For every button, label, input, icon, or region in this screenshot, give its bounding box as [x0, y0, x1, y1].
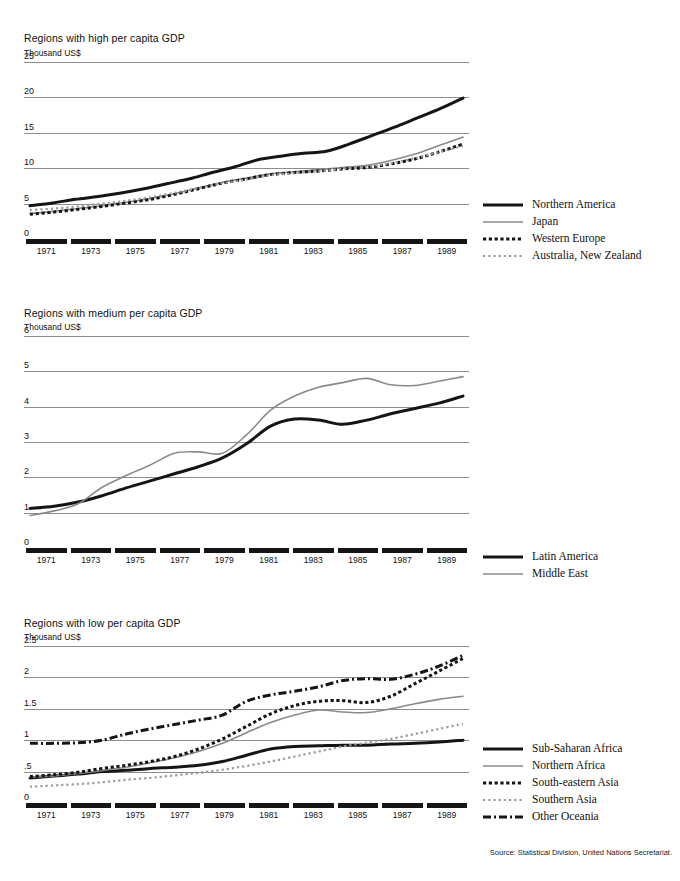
legend-swatch-icon: [483, 760, 523, 772]
x-axis-tick-label: 1975: [113, 555, 158, 565]
x-axis-tick-label: 1987: [380, 246, 425, 256]
legend-label: Southern Asia: [532, 794, 597, 806]
x-axis-tick-label: 1987: [380, 810, 425, 820]
x-axis-tick-label: 1979: [202, 555, 247, 565]
y-axis-tick-label: 6: [24, 325, 29, 335]
series-line: [30, 98, 463, 206]
legend-swatch-icon: [483, 777, 523, 789]
panel-unit-medium: Thousand US$: [24, 322, 81, 332]
x-axis-segment: [71, 239, 112, 244]
legend-swatch-icon: [483, 199, 523, 211]
x-axis-segment: [71, 548, 112, 553]
x-axis-segment: [26, 548, 67, 553]
panel-title-low: Regions with low per capita GDP: [24, 617, 181, 629]
x-axis-segment: [204, 803, 245, 808]
x-axis-segment: [249, 239, 290, 244]
legend-item[interactable]: Middle East: [483, 565, 598, 582]
chart-plot-low: 0.511.522.519711973197519771979198119831…: [24, 646, 469, 821]
legend-swatch-icon: [483, 551, 523, 563]
legend-label: Western Europe: [532, 233, 605, 245]
x-axis-tick-label: 1971: [24, 810, 69, 820]
y-axis-tick-label: 25: [24, 51, 34, 61]
legend-swatch-icon: [483, 233, 523, 245]
x-axis-tick-label: 1987: [380, 555, 425, 565]
x-axis-segment: [427, 239, 468, 244]
legend-swatch-icon: [483, 216, 523, 228]
series-line: [30, 740, 463, 778]
x-axis-tick-label: 1975: [113, 246, 158, 256]
x-axis-tick-label: 1971: [24, 246, 69, 256]
legend-item[interactable]: Northern America: [483, 196, 642, 213]
legend-swatch-icon: [483, 568, 523, 580]
x-axis-tick-label: 1981: [247, 810, 292, 820]
series-line: [30, 377, 463, 516]
x-axis-segment: [160, 803, 201, 808]
panel-title-high: Regions with high per capita GDP: [24, 32, 185, 44]
legend-item[interactable]: South-eastern Asia: [483, 774, 622, 791]
x-axis-segment: [160, 239, 201, 244]
legend-item[interactable]: Other Oceania: [483, 808, 622, 825]
x-axis-tick-label: 1971: [24, 555, 69, 565]
x-axis-tick-label: 1979: [202, 246, 247, 256]
x-axis-segment: [382, 239, 423, 244]
series-layer: [24, 336, 469, 548]
legend-label: Sub-Saharan Africa: [532, 743, 622, 755]
x-axis-tick-label: 1981: [247, 555, 292, 565]
x-axis-segment: [338, 548, 379, 553]
x-axis-segment: [427, 803, 468, 808]
x-axis-segment: [160, 548, 201, 553]
x-axis-segment: [427, 548, 468, 553]
x-axis-segment: [293, 548, 334, 553]
x-axis-segment: [293, 803, 334, 808]
legend-item[interactable]: Japan: [483, 213, 642, 230]
chart-plot-medium: 0123456197119731975197719791981198319851…: [24, 336, 469, 566]
x-axis-tick-label: 1985: [336, 810, 381, 820]
series-layer: [24, 646, 469, 803]
x-axis-segment: [249, 803, 290, 808]
x-axis-segment: [338, 803, 379, 808]
x-axis-tick-label: 1977: [158, 246, 203, 256]
x-axis-segment: [115, 239, 156, 244]
legend-label: Middle East: [532, 568, 588, 580]
x-axis-tick-label: 1983: [291, 810, 336, 820]
legend-swatch-icon: [483, 250, 523, 262]
legend-label: Northern Africa: [532, 760, 605, 772]
y-axis-tick-label: 2.5: [24, 635, 37, 645]
legend-item[interactable]: Sub-Saharan Africa: [483, 740, 622, 757]
x-axis-segment: [71, 803, 112, 808]
legend-swatch-icon: [483, 811, 523, 823]
x-axis-tick-label: 1983: [291, 246, 336, 256]
legend-item[interactable]: Western Europe: [483, 230, 642, 247]
x-axis-segment: [204, 239, 245, 244]
legend-item[interactable]: Australia, New Zealand: [483, 247, 642, 264]
legend-item[interactable]: Southern Asia: [483, 791, 622, 808]
x-axis-tick-label: 1981: [247, 246, 292, 256]
x-axis-tick-label: 1989: [425, 810, 470, 820]
legend-item[interactable]: Latin America: [483, 548, 598, 565]
series-line: [30, 659, 463, 777]
x-axis-tick-label: 1973: [69, 246, 114, 256]
x-axis: [24, 239, 469, 244]
legend-label: South-eastern Asia: [532, 777, 619, 789]
x-axis-segment: [26, 239, 67, 244]
series-line: [30, 696, 463, 777]
series-line: [30, 655, 463, 743]
legend-label: Australia, New Zealand: [532, 250, 642, 262]
source-note: Source: Statistical Division, United Nat…: [490, 848, 672, 857]
x-axis-segment: [382, 803, 423, 808]
series-layer: [24, 62, 469, 239]
x-axis-segment: [115, 548, 156, 553]
x-axis-segment: [115, 803, 156, 808]
x-axis-segment: [293, 239, 334, 244]
x-axis-tick-label: 1989: [425, 246, 470, 256]
legend-label: Northern America: [532, 199, 615, 211]
legend-medium: Latin AmericaMiddle East: [483, 548, 598, 582]
x-axis-segment: [204, 548, 245, 553]
legend-low: Sub-Saharan AfricaNorthern AfricaSouth-e…: [483, 740, 622, 825]
x-axis-tick-label: 1975: [113, 810, 158, 820]
legend-item[interactable]: Northern Africa: [483, 757, 622, 774]
x-axis-tick-label: 1977: [158, 555, 203, 565]
legend-swatch-icon: [483, 743, 523, 755]
x-axis-segment: [338, 239, 379, 244]
x-axis-segment: [26, 803, 67, 808]
